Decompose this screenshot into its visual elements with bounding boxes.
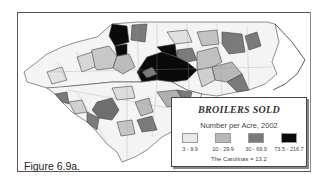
legend-label: 73.5 - 216.7 xyxy=(273,146,305,152)
outer-banks xyxy=(273,24,305,90)
legend-class-2: 10 - 29.9 xyxy=(207,133,239,152)
legend-class-4: 73.5 - 216.7 xyxy=(273,133,305,152)
legend-note: The Carolinas = 13.2 xyxy=(172,156,306,162)
swatch-dark xyxy=(281,133,297,143)
legend-subtitle: Number per Acre, 2002 xyxy=(172,121,306,130)
legend-class-3: 30 - 69.9 xyxy=(240,133,272,152)
legend-label: 30 - 69.9 xyxy=(240,146,272,152)
map-legend: BROILERS SOLD Number per Acre, 2002 3 - … xyxy=(171,97,307,167)
figure-caption: Figure 6.9a. xyxy=(24,160,80,172)
legend-class-1: 3 - 9.9 xyxy=(174,133,206,152)
legend-title: BROILERS SOLD xyxy=(172,104,306,115)
legend-label: 3 - 9.9 xyxy=(174,146,206,152)
swatch-light xyxy=(182,133,198,143)
legend-swatches: 3 - 9.9 10 - 29.9 30 - 69.9 73.5 - 216.7 xyxy=(172,133,306,155)
legend-label: 10 - 29.9 xyxy=(207,146,239,152)
swatch-medium-dark xyxy=(248,133,264,143)
swatch-medium-light xyxy=(215,133,231,143)
